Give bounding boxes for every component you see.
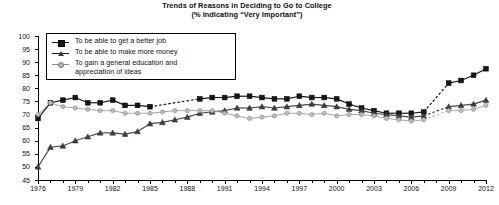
legend-item[interactable]: To be able to get a better job bbox=[52, 37, 166, 47]
data-point-square bbox=[60, 98, 65, 103]
data-point-circle bbox=[335, 114, 339, 118]
data-point-square bbox=[272, 96, 277, 101]
data-point-circle bbox=[160, 110, 164, 114]
data-point-circle bbox=[185, 109, 189, 113]
data-point-square bbox=[471, 73, 476, 78]
data-point-circle bbox=[247, 116, 251, 120]
data-point-circle bbox=[36, 112, 40, 116]
data-point-square bbox=[148, 104, 153, 109]
data-point-circle bbox=[422, 118, 426, 122]
data-point-circle bbox=[359, 112, 363, 116]
data-point-circle bbox=[148, 111, 152, 115]
data-point-circle bbox=[310, 112, 314, 116]
data-point-triangle bbox=[135, 129, 141, 134]
data-point-circle bbox=[322, 111, 326, 115]
series-line-segment bbox=[424, 111, 449, 120]
square-marker bbox=[52, 38, 69, 47]
data-point-circle bbox=[135, 111, 139, 115]
data-point-circle bbox=[73, 106, 77, 110]
data-point-circle bbox=[347, 112, 351, 116]
data-point-circle bbox=[235, 114, 239, 118]
data-point-circle bbox=[111, 109, 115, 113]
data-point-square bbox=[484, 66, 489, 71]
data-point-square bbox=[334, 96, 339, 101]
data-point-circle bbox=[447, 109, 451, 113]
data-point-square bbox=[98, 100, 103, 105]
data-point-circle bbox=[471, 107, 475, 111]
data-point-square bbox=[459, 78, 464, 83]
series-line-segment bbox=[150, 99, 200, 107]
data-point-circle bbox=[384, 116, 388, 120]
data-point-circle bbox=[223, 111, 227, 115]
data-point-circle bbox=[372, 114, 376, 118]
data-point-circle bbox=[48, 101, 52, 105]
data-point-circle bbox=[98, 109, 102, 113]
data-point-square bbox=[210, 95, 215, 100]
data-point-circle bbox=[198, 109, 202, 113]
legend-item[interactable]: To gain a general education and apprecia… bbox=[52, 59, 177, 76]
legend-item-label: To gain a general education and apprecia… bbox=[75, 59, 177, 76]
data-point-square bbox=[446, 81, 451, 86]
data-point-square bbox=[297, 94, 302, 99]
data-point-circle bbox=[397, 118, 401, 122]
data-point-square bbox=[197, 96, 202, 101]
data-point-square bbox=[110, 98, 115, 103]
data-point-circle bbox=[285, 111, 289, 115]
data-point-circle bbox=[210, 109, 214, 113]
data-point-circle bbox=[86, 107, 90, 111]
legend-item[interactable]: To be able to make more money bbox=[52, 48, 178, 58]
series-triangle bbox=[35, 97, 489, 169]
chart-legend: To be able to get a better jobTo be able… bbox=[46, 33, 236, 80]
data-point-circle bbox=[260, 115, 264, 119]
data-point-circle bbox=[459, 109, 463, 113]
data-point-circle bbox=[484, 103, 488, 107]
data-point-circle bbox=[409, 119, 413, 123]
series-line-segment bbox=[38, 147, 50, 167]
circle-marker bbox=[52, 60, 69, 69]
data-point-square bbox=[284, 96, 289, 101]
legend-item-label: To be able to make more money bbox=[75, 48, 178, 57]
data-point-square bbox=[222, 95, 227, 100]
data-point-square bbox=[309, 95, 314, 100]
data-point-circle bbox=[297, 111, 301, 115]
data-point-triangle bbox=[483, 97, 489, 102]
data-point-square bbox=[247, 94, 252, 99]
data-point-square bbox=[260, 95, 265, 100]
triangle-marker bbox=[52, 49, 69, 58]
data-point-square bbox=[73, 95, 78, 100]
data-point-circle bbox=[173, 109, 177, 113]
data-point-circle bbox=[123, 111, 127, 115]
series-line-segment bbox=[38, 103, 50, 115]
data-point-square bbox=[135, 103, 140, 108]
data-point-circle bbox=[61, 105, 65, 109]
data-point-square bbox=[235, 94, 240, 99]
data-point-square bbox=[347, 102, 352, 107]
series-line-segment bbox=[424, 83, 449, 112]
data-point-square bbox=[322, 95, 327, 100]
data-point-square bbox=[85, 100, 90, 105]
legend-item-label: To be able to get a better job bbox=[75, 37, 166, 46]
data-point-circle bbox=[272, 114, 276, 118]
data-point-square bbox=[123, 103, 128, 108]
